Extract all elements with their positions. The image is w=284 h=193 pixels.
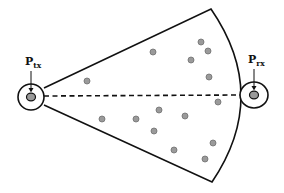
transmitter-antenna-icon	[27, 93, 36, 101]
scatterer-dot	[188, 57, 194, 63]
scatterer-dot	[84, 78, 90, 84]
scatterer-dot	[133, 116, 139, 122]
transmitter-node: Ptx	[18, 55, 44, 110]
scatterer-dot	[171, 147, 177, 153]
line-of-sight	[44, 95, 240, 96]
scatterer-dot	[206, 74, 212, 80]
scatterer-dot	[151, 128, 157, 134]
scatterer-dot	[215, 99, 221, 105]
scatterer-dot	[99, 116, 105, 122]
scatterer-dot	[210, 140, 216, 146]
scatterer-dot	[202, 156, 208, 162]
scatterer-dot	[198, 39, 204, 45]
scatterer-dot	[205, 48, 211, 54]
scatterer-points	[84, 39, 221, 162]
receiver-node: Prx	[240, 53, 268, 108]
scattering-diagram: Ptx Prx	[0, 0, 284, 193]
scatterer-dot	[156, 107, 162, 113]
transmitter-label: Ptx	[25, 55, 42, 70]
receiver-antenna-icon	[250, 91, 259, 99]
scatterer-dot	[150, 49, 156, 55]
receiver-label: Prx	[248, 53, 265, 68]
scatterer-dot	[182, 113, 188, 119]
